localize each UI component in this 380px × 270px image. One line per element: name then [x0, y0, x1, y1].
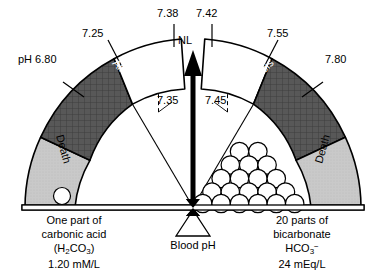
tick-label-7-80: 7.80: [325, 53, 346, 66]
right-formula-pre: HCO: [285, 242, 309, 254]
right-pan-line-2: bicarbonate: [242, 227, 362, 241]
right-pan-formula: HCO3−: [242, 241, 362, 257]
left-pan-formula: (H2CO3): [14, 241, 134, 257]
tick-label-7-45: 7.45: [205, 94, 226, 107]
left-formula-mid: CO: [70, 242, 87, 254]
tick-label-7-35: 7.35: [157, 94, 178, 107]
weight-circle: [54, 188, 71, 205]
left-pan-line-4: 1.20 mM/L: [14, 257, 134, 270]
tick-label-7-38: 7.38: [157, 7, 178, 20]
left-pan-line-1: One part of: [14, 213, 134, 227]
right-pan-line-1: 20 parts of: [242, 213, 362, 227]
tick-label-7-55: 7.55: [267, 27, 288, 40]
fulcrum-label: Blood pH: [143, 238, 243, 252]
sight-line-left: [133, 104, 194, 207]
left-pan-line-2: carbonic acid: [14, 227, 134, 241]
left-formula-post: ): [91, 242, 95, 254]
left-formula-pre: (H: [54, 242, 66, 254]
right-pan-line-4: 24 mEq/L: [242, 257, 362, 270]
nl-pointer-arrow: [184, 50, 202, 207]
tick-label-7-42: 7.42: [196, 7, 217, 20]
nl-pointer-label: NL: [178, 34, 192, 47]
left-pan-caption: One part of carbonic acid (H2CO3) 1.20 m…: [14, 213, 134, 270]
tick-label-ph-6-80: pH 6.80: [18, 53, 57, 66]
right-formula-sup: −: [314, 242, 319, 251]
tick-label-7-25: 7.25: [82, 27, 103, 40]
left-pan-weights: [54, 188, 71, 205]
diagram-root: Death Alkalosis Alkalosis Death pH 6.80 …: [0, 0, 380, 270]
right-pan-caption: 20 parts of bicarbonate HCO3− 24 mEq/L: [242, 213, 362, 270]
